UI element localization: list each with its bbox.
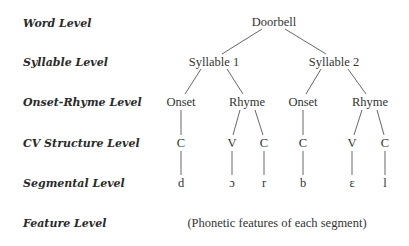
segment-node-2: ɔ (229, 176, 235, 191)
cv-node-3: C (260, 136, 268, 151)
segment-node-6: l (383, 176, 386, 191)
segment-node-3: r (262, 176, 266, 191)
segment-node-4: b (300, 176, 306, 191)
word-node: Doorbell (252, 15, 296, 30)
cv-node-6: C (381, 136, 389, 151)
segment-node-1: d (178, 176, 184, 191)
cv-node-5: V (347, 136, 356, 151)
onset-node-1: Onset (166, 95, 195, 110)
segment-node-5: ɛ (349, 176, 354, 191)
tree-edges (0, 0, 409, 246)
syllable-node-2: Syllable 2 (309, 55, 359, 70)
rhyme-node-2: Rhyme (352, 95, 388, 110)
feature-level-text: (Phonetic features of each segment) (187, 216, 366, 231)
cv-node-4: C (299, 136, 307, 151)
rhyme-node-1: Rhyme (229, 95, 265, 110)
cv-node-1: C (177, 136, 185, 151)
onset-node-2: Onset (288, 95, 317, 110)
cv-node-2: V (227, 136, 236, 151)
syllable-node-1: Syllable 1 (189, 55, 239, 70)
